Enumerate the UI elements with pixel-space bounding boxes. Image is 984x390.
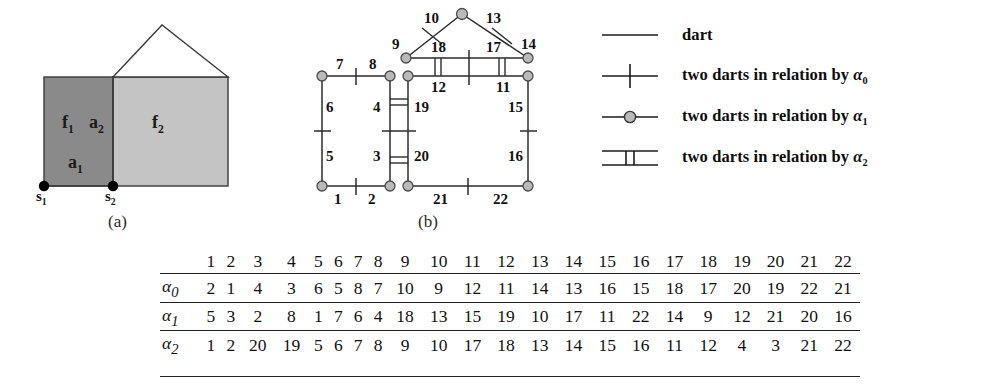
dart-label-22: 22	[493, 191, 508, 208]
header-cell: 8	[368, 250, 388, 274]
alpha1-node	[317, 71, 327, 81]
table-cell: 14	[523, 274, 557, 303]
table-cell: 6	[348, 302, 368, 331]
table-cell: 9	[388, 331, 422, 359]
table-cell: 16	[826, 302, 860, 331]
table-cell: 1	[221, 274, 241, 303]
legend-label-alpha2: two darts in relation by α2	[682, 147, 868, 168]
table-cell: 2	[241, 302, 275, 331]
table-cell: 5	[201, 302, 221, 331]
table-cell: 22	[624, 302, 658, 331]
table-cell: 8	[275, 302, 309, 331]
header-cell: 11	[456, 250, 490, 274]
dart-label-4: 4	[373, 99, 381, 116]
table-cell: 11	[590, 302, 624, 331]
figure-page: f1 a2 f2 a1 s1 s2 (a)	[0, 0, 984, 390]
header-cell: 19	[725, 250, 759, 274]
header-cell: 14	[557, 250, 591, 274]
table-cell: 10	[388, 274, 422, 303]
legend-item-alpha1: two darts in relation by α1	[596, 100, 868, 134]
row-label-alpha0: α0	[160, 274, 201, 303]
table-cell: 19	[275, 331, 309, 359]
table-row-alpha1: α1 5 3 2 8 1 7 6 4 18 13 15 19 10 17 11	[160, 302, 860, 331]
dart-label-14: 14	[521, 36, 536, 53]
table-cell: 13	[422, 302, 456, 331]
alpha1-node	[401, 53, 411, 63]
header-cell: 5	[308, 250, 328, 274]
alpha1-node	[403, 181, 413, 191]
dart-label-3: 3	[373, 148, 381, 165]
house-drawing	[0, 0, 290, 210]
header-cell: 6	[328, 250, 348, 274]
table-cell: 18	[388, 302, 422, 331]
table-cell: 11	[658, 331, 692, 359]
dart-label-2: 2	[368, 191, 376, 208]
header-cell: 17	[658, 250, 692, 274]
dart-label-15: 15	[508, 99, 523, 116]
table-cell: 3	[759, 331, 793, 359]
vertex-label-s1: s1	[36, 188, 47, 207]
header-cell: 21	[792, 250, 826, 274]
dart-line-icon	[596, 20, 682, 50]
table-cell: 22	[792, 274, 826, 303]
alpha1-node	[457, 9, 468, 20]
table-cell: 20	[241, 331, 275, 359]
table-cell: 12	[456, 274, 490, 303]
table-cell: 19	[759, 274, 793, 303]
table-bottom-rule	[160, 376, 860, 377]
dart-label-8: 8	[369, 56, 377, 73]
table-cell: 18	[489, 331, 523, 359]
alpha1-node	[523, 181, 533, 191]
involution-table: 1 2 3 4 5 6 7 8 9 10 11 12 13 14 15 16 1	[160, 250, 860, 382]
dart-label-6: 6	[326, 99, 334, 116]
legend: dart two darts in relation by α0	[596, 18, 984, 198]
header-cell: 2	[221, 250, 241, 274]
table-cell: 1	[308, 302, 328, 331]
table-cell: 19	[489, 302, 523, 331]
table-cell: 15	[456, 302, 490, 331]
header-cell: 22	[826, 250, 860, 274]
header-cell: 3	[241, 250, 275, 274]
face-label-f1: f1	[62, 112, 74, 136]
legend-item-dart: dart	[596, 18, 713, 52]
alpha1-node	[385, 71, 395, 81]
table-cell: 5	[308, 331, 328, 359]
dart-label-12: 12	[431, 79, 446, 96]
table-cell: 8	[348, 274, 368, 303]
table-cell: 9	[691, 302, 725, 331]
dart-label-19: 19	[414, 99, 429, 116]
table-cell: 14	[557, 331, 591, 359]
dart-label-5: 5	[326, 148, 334, 165]
legend-item-alpha2: two darts in relation by α2	[596, 141, 868, 175]
header-cell: 15	[590, 250, 624, 274]
table-cell: 22	[826, 331, 860, 359]
table-cell: 13	[523, 331, 557, 359]
roof-triangle	[113, 25, 228, 77]
table-cell: 18	[658, 274, 692, 303]
row-label-alpha2: α2	[160, 331, 201, 359]
alpha1-node	[385, 181, 395, 191]
dart-label-21: 21	[433, 191, 448, 208]
header-cell: 1	[201, 250, 221, 274]
table-cell: 7	[348, 331, 368, 359]
header-cell: 12	[489, 250, 523, 274]
figure-b-caption: (b)	[418, 212, 438, 232]
legend-label-alpha1: two darts in relation by α1	[682, 106, 868, 127]
table-cell: 6	[308, 274, 328, 303]
legend-item-alpha0: two darts in relation by α0	[596, 59, 868, 93]
table-cell: 15	[590, 331, 624, 359]
header-cell: 20	[759, 250, 793, 274]
table-cell: 9	[422, 274, 456, 303]
dart-label-11: 11	[496, 79, 510, 96]
legend-label-alpha0: two darts in relation by α0	[682, 65, 868, 86]
alpha1-node	[317, 181, 327, 191]
figure-a-house-subdivision: f1 a2 f2 a1 s1 s2 (a)	[0, 0, 290, 240]
dart-label-13: 13	[486, 10, 501, 27]
alpha1-node-icon	[596, 102, 682, 132]
table-cell: 4	[725, 331, 759, 359]
table-cell: 14	[658, 302, 692, 331]
table-cell: 6	[328, 331, 348, 359]
dart-label-20: 20	[414, 148, 429, 165]
table-cell: 15	[624, 274, 658, 303]
header-cell: 10	[422, 250, 456, 274]
